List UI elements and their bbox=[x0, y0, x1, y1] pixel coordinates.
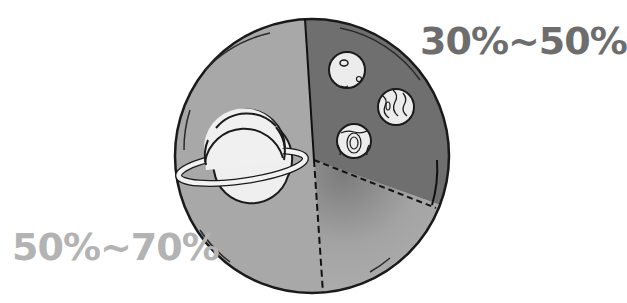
label-rocky-range: 30%~50% bbox=[420, 22, 627, 60]
label-gas-giant-range: 50%~70% bbox=[12, 228, 219, 266]
moon-planet-icon bbox=[329, 52, 365, 88]
swirl-planet-icon bbox=[378, 89, 414, 125]
jupiter-planet-icon bbox=[337, 124, 371, 158]
